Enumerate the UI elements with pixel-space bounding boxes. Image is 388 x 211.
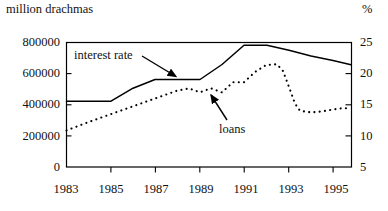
- annotation-arrow-loans: [211, 95, 227, 120]
- right-axis-ticks: [346, 74, 352, 136]
- plot-frame: [67, 43, 352, 168]
- series-line-interest-rate: [67, 45, 352, 101]
- chart-plot-svg: [0, 0, 388, 211]
- x-axis-ticks: [111, 167, 333, 173]
- chart-figure: million drachmas % 800000 600000 400000 …: [0, 0, 388, 211]
- annotation-arrow-interest-rate: [142, 56, 176, 77]
- left-axis-ticks: [67, 74, 72, 136]
